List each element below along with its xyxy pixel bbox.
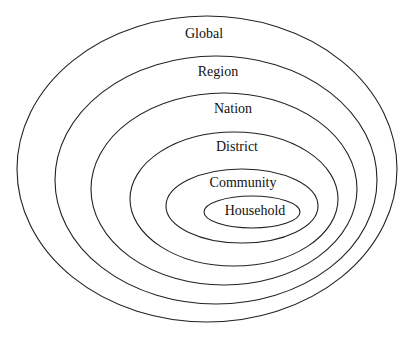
- label-district: District: [216, 139, 258, 154]
- label-household: Household: [225, 203, 286, 218]
- ellipse-global: [17, 16, 397, 322]
- label-region: Region: [198, 64, 238, 79]
- label-global: Global: [185, 26, 223, 41]
- ellipse-rings: [17, 16, 397, 322]
- nested-levels-diagram: Global Region Nation District Community …: [0, 0, 415, 343]
- label-nation: Nation: [214, 101, 252, 116]
- label-community: Community: [210, 175, 277, 190]
- level-labels: Global Region Nation District Community …: [185, 26, 285, 218]
